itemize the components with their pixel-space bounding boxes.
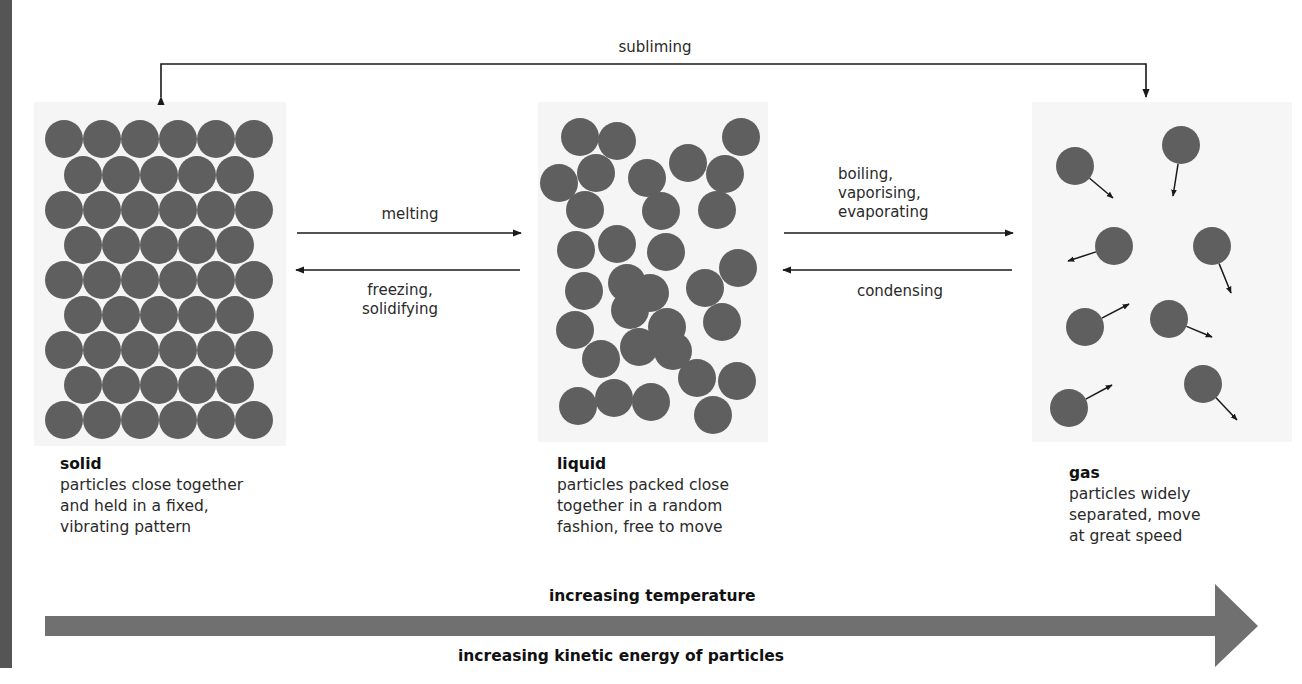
particle [718, 362, 756, 400]
solid-text: particles close together and held in a f… [60, 475, 243, 538]
liquid-title: liquid [557, 454, 729, 475]
particle [620, 328, 658, 366]
particle [557, 231, 595, 269]
particle [642, 192, 680, 230]
particle [45, 120, 83, 158]
condensing-label: condensing [810, 282, 990, 301]
particle [628, 159, 666, 197]
particle [678, 359, 716, 397]
particle [1095, 227, 1133, 265]
solid-description: solid particles close together and held … [60, 454, 243, 538]
particle [140, 296, 178, 334]
particle [159, 261, 197, 299]
particle [216, 366, 254, 404]
particle [556, 311, 594, 349]
particle [598, 225, 636, 263]
kinetic-energy-label: increasing kinetic energy of particles [458, 647, 784, 665]
particle [197, 401, 235, 439]
particle [235, 191, 273, 229]
particle [140, 226, 178, 264]
particle [566, 191, 604, 229]
particle [565, 272, 603, 310]
liquid-text: particles packed close together in a ran… [557, 475, 729, 538]
particle [64, 366, 102, 404]
particle [669, 144, 707, 182]
particle [235, 261, 273, 299]
particle [121, 261, 159, 299]
particle [235, 120, 273, 158]
particle [1056, 147, 1094, 185]
particle [121, 331, 159, 369]
melting-label: melting [320, 205, 500, 224]
particle [1162, 126, 1200, 164]
particle [140, 156, 178, 194]
particle [559, 387, 597, 425]
particle [45, 331, 83, 369]
particle [178, 226, 216, 264]
particle [83, 191, 121, 229]
particle [703, 303, 741, 341]
particle [686, 269, 724, 307]
particle [121, 191, 159, 229]
particle [647, 233, 685, 271]
particle [83, 261, 121, 299]
particle [45, 261, 83, 299]
particle [235, 401, 273, 439]
particle [216, 226, 254, 264]
particle [178, 296, 216, 334]
particle [83, 331, 121, 369]
particle [159, 191, 197, 229]
liquid-description: liquid particles packed close together i… [557, 454, 729, 538]
particle [632, 383, 670, 421]
particle [197, 120, 235, 158]
particle [1050, 389, 1088, 427]
gas-title: gas [1069, 463, 1200, 484]
particle [159, 331, 197, 369]
states-of-matter-diagram: subliming melting freezing, solidifying … [0, 0, 1302, 684]
particle [561, 118, 599, 156]
particle [595, 379, 633, 417]
particle [197, 331, 235, 369]
particle [178, 156, 216, 194]
particle [197, 261, 235, 299]
particle [102, 226, 140, 264]
particle [83, 401, 121, 439]
particle [45, 401, 83, 439]
particle [159, 401, 197, 439]
particle [64, 296, 102, 334]
particle [102, 366, 140, 404]
particle [1066, 308, 1104, 346]
particle [216, 296, 254, 334]
particle [140, 366, 178, 404]
particle [722, 118, 760, 156]
particle [1150, 300, 1188, 338]
particle [719, 249, 757, 287]
subliming-label: subliming [560, 38, 750, 57]
diagram-canvas [0, 0, 1302, 684]
particle [102, 156, 140, 194]
particle [598, 122, 636, 160]
gas-description: gas particles widely separated, move at … [1069, 463, 1200, 547]
side-bar [0, 0, 12, 668]
particle [235, 331, 273, 369]
particle [1184, 365, 1222, 403]
particle [611, 291, 649, 329]
particle [45, 191, 83, 229]
particle [64, 156, 102, 194]
particle [216, 156, 254, 194]
particle [694, 396, 732, 434]
particle [577, 154, 615, 192]
solid-title: solid [60, 454, 243, 475]
particle [1193, 227, 1231, 265]
boiling-label: boiling, vaporising, evaporating [838, 165, 958, 222]
particle [64, 226, 102, 264]
particle [706, 155, 744, 193]
particle [83, 120, 121, 158]
particle [121, 120, 159, 158]
particle [102, 296, 140, 334]
particle [159, 120, 197, 158]
particle [197, 191, 235, 229]
particle [582, 340, 620, 378]
particle [698, 191, 736, 229]
particle [121, 401, 159, 439]
